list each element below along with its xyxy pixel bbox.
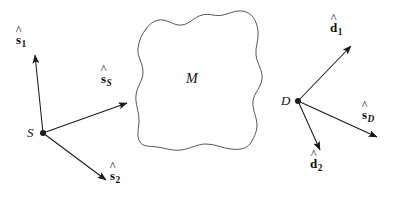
vector-label-sd-subscript: D (368, 115, 375, 124)
region-m-outline (136, 11, 262, 150)
vector-label-d2-base: ^d (310, 157, 317, 170)
vector-label-d2-subscript: 2 (318, 164, 323, 173)
vector-label-s2-subscript: 2 (116, 176, 121, 185)
vector-s1-arrow (35, 55, 43, 133)
hat-accent-icon: ^ (331, 12, 337, 24)
vector-s2-arrow (43, 133, 106, 180)
vector-label-s2-base: ^s (110, 169, 115, 182)
detector-point-d-dot (295, 98, 301, 104)
scattering-geometry-figure: M S D ^s1 ^sS ^s2 ^d1 ^sD ^d2 (0, 0, 401, 201)
vector-label-sd-base: ^s (362, 108, 367, 121)
vector-label-d2: ^d2 (310, 157, 322, 173)
vector-label-ss-base: ^s (101, 72, 106, 85)
point-label-d: D (281, 94, 290, 107)
vector-label-d1: ^d1 (330, 21, 342, 37)
region-label-m: M (186, 72, 198, 86)
vector-label-s2: ^s2 (110, 169, 120, 185)
hat-accent-icon: ^ (362, 99, 368, 111)
vector-label-s1: ^s1 (16, 33, 26, 49)
vector-d2-arrow (298, 101, 320, 150)
vector-label-d1-subscript: 1 (338, 28, 343, 37)
vector-label-s1-base: ^s (16, 33, 21, 46)
vector-label-s1-subscript: 1 (22, 40, 27, 49)
vector-label-ss: ^sS (101, 72, 112, 88)
hat-accent-icon: ^ (16, 24, 22, 36)
vector-label-sd: ^sD (362, 108, 374, 124)
hat-accent-icon: ^ (311, 148, 317, 160)
vector-ss-arrow (43, 103, 127, 133)
hat-accent-icon: ^ (110, 160, 116, 172)
vector-label-d1-base: ^d (330, 21, 337, 34)
vector-d1-arrow (298, 46, 351, 101)
vector-label-ss-subscript: S (107, 79, 112, 88)
hat-accent-icon: ^ (101, 63, 107, 75)
point-label-s: S (27, 126, 34, 139)
source-point-s-dot (40, 130, 46, 136)
